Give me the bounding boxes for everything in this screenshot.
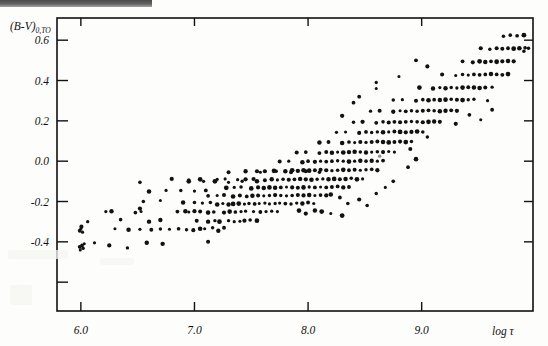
data-point [369, 109, 372, 112]
data-point [392, 140, 396, 144]
data-point [321, 177, 324, 180]
data-point [126, 227, 130, 231]
data-point [472, 73, 476, 77]
data-point [364, 150, 368, 154]
data-point [440, 72, 444, 76]
data-point [293, 177, 297, 181]
data-point [186, 179, 191, 184]
data-point [432, 119, 436, 123]
data-point [301, 185, 306, 190]
data-point [352, 101, 356, 105]
data-point [347, 185, 351, 189]
data-point [438, 120, 442, 124]
data-point [319, 209, 324, 214]
data-point [86, 220, 89, 223]
data-point [375, 168, 379, 172]
data-point [461, 59, 465, 63]
data-point [244, 210, 247, 213]
data-point [304, 150, 308, 154]
y-axis-tick-labels: -0.4-0.20.00.20.40.6 [31, 34, 49, 248]
data-point [243, 202, 246, 205]
data-point [283, 169, 288, 174]
data-point [206, 210, 211, 215]
y-tick-label: -0.2 [31, 196, 49, 208]
data-point [361, 177, 364, 180]
data-point [147, 219, 151, 223]
data-point [414, 157, 419, 162]
data-point [410, 120, 413, 123]
data-point [298, 177, 302, 181]
data-point [477, 86, 482, 91]
data-point [203, 227, 206, 230]
data-point [259, 171, 262, 174]
data-point [79, 225, 83, 229]
x-axis-tick-labels: 6.07.08.09.0 [74, 324, 429, 336]
data-point [468, 113, 472, 117]
data-point [79, 248, 82, 251]
data-point [409, 130, 413, 134]
data-point [415, 120, 419, 124]
data-point [488, 48, 491, 51]
data-point [425, 64, 429, 68]
plot-canvas: 6.07.08.09.0 -0.4-0.20.00.20.40.6 log τ … [0, 0, 548, 346]
data-point [164, 189, 167, 192]
data-point [486, 99, 489, 102]
data-point [104, 210, 107, 213]
data-point [410, 140, 414, 144]
data-point [376, 150, 380, 154]
data-point [319, 193, 323, 197]
data-point [304, 169, 308, 173]
data-point [352, 121, 355, 124]
data-point [326, 177, 330, 181]
data-point [330, 169, 333, 172]
data-point [279, 194, 282, 197]
x-tick-label: 7.0 [187, 324, 202, 336]
data-point [318, 171, 322, 175]
data-point [268, 202, 271, 205]
data-point [313, 194, 316, 197]
data-point [195, 219, 199, 223]
data-point [341, 150, 346, 155]
data-point [248, 218, 252, 222]
y-tick-label: 0.2 [35, 115, 50, 127]
data-point [287, 178, 291, 182]
data-point [515, 34, 519, 38]
y-axis-title-main: (B-V) [10, 20, 36, 33]
data-point [502, 34, 506, 38]
data-point [221, 202, 224, 205]
data-point [213, 219, 216, 222]
data-point [227, 170, 231, 174]
data-point [227, 219, 230, 222]
data-point [227, 181, 230, 184]
data-point [478, 73, 482, 77]
data-point [421, 109, 425, 113]
data-point [340, 141, 345, 146]
data-point [336, 184, 340, 188]
data-point [304, 177, 308, 181]
data-point [247, 202, 250, 205]
data-point [285, 194, 288, 197]
data-point [276, 178, 279, 181]
data-point [222, 193, 226, 197]
data-point [467, 74, 470, 77]
data-point [262, 186, 266, 190]
data-point [370, 140, 374, 144]
data-point [392, 130, 396, 134]
data-point [276, 210, 279, 213]
data-point [336, 168, 340, 172]
data-point [374, 121, 378, 125]
data-point [240, 180, 243, 183]
data-point [138, 206, 142, 210]
data-point [224, 177, 227, 180]
data-point [466, 85, 470, 89]
data-point [370, 150, 373, 153]
data-point [213, 179, 218, 184]
data-point [483, 73, 487, 77]
data-point [391, 110, 395, 114]
data-point [252, 210, 255, 213]
data-point [198, 177, 203, 182]
data-point [443, 97, 448, 102]
data-point [449, 86, 452, 89]
data-point [370, 167, 374, 171]
data-point [461, 73, 465, 77]
